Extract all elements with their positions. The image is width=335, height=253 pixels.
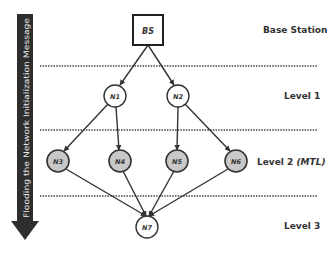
flooding-arrow-label: Flooding the Network Initialization Mess… <box>22 18 31 218</box>
node-label: N3 <box>53 158 63 166</box>
level-label-text: Base Station <box>263 25 327 35</box>
base-station-label: BS <box>142 27 154 36</box>
node-n6: N6 <box>225 150 247 172</box>
level-label-text: Level 2 <box>257 157 293 167</box>
level-label-text: Level 1 <box>284 91 320 101</box>
level-label-base-station: Base Station <box>263 25 327 35</box>
level-label-suffix: (MTL) <box>296 157 325 167</box>
diagram-canvas: Flooding the Network Initialization Mess… <box>0 0 335 253</box>
flooding-arrow: Flooding the Network Initialization Mess… <box>11 14 39 240</box>
level-label-1: Level 1 <box>284 91 320 101</box>
node-n5: N5 <box>166 150 188 172</box>
edge-bs-n2 <box>148 45 174 85</box>
level-label-3: Level 3 <box>284 221 320 231</box>
node-n1: N1 <box>104 85 126 107</box>
base-station-node: BS <box>133 15 163 45</box>
edge-n6-n7 <box>149 169 228 216</box>
node-n7: N7 <box>136 216 158 238</box>
node-label: N6 <box>231 158 241 166</box>
node-label: N4 <box>115 158 125 166</box>
edge-n2-n5 <box>177 107 178 150</box>
edge-bs-n1 <box>120 45 148 85</box>
node-label: N7 <box>142 224 152 232</box>
node-label: N5 <box>172 158 182 166</box>
node-label: N2 <box>173 93 183 101</box>
node-n3: N3 <box>47 150 69 172</box>
edge-n1-n4 <box>116 107 119 150</box>
node-n4: N4 <box>109 150 131 172</box>
node-n2: N2 <box>167 85 189 107</box>
edge-n1-n3 <box>64 104 108 151</box>
edge-n2-n6 <box>185 104 230 151</box>
level-label-text: Level 3 <box>284 221 320 231</box>
level-label-2: Level 2 (MTL) <box>257 157 326 167</box>
node-label: N1 <box>110 93 120 101</box>
